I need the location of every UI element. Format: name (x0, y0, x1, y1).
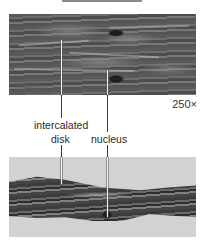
intercalated-disk-pointer-bottom (61, 157, 62, 184)
nucleus-pointer-bottom (107, 157, 108, 217)
fiber-streak (69, 52, 159, 59)
bottom-micrograph (9, 157, 196, 237)
nucleus-pointer-top (107, 70, 108, 95)
fiber-streak (19, 40, 89, 47)
intercalated-disk-pointer-lower (61, 145, 62, 157)
nucleus-pointer-lower (107, 145, 108, 157)
muscle-fiber (9, 173, 196, 221)
top-micrograph (9, 14, 196, 95)
nucleus-pointer-upper (107, 95, 108, 132)
fiber-streak (109, 25, 189, 30)
intercalated-disk-label-line2: disk (51, 133, 70, 145)
intercalated-disk-pointer-top (61, 40, 62, 95)
nucleus-label: nucleus (91, 133, 127, 145)
magnification-label: 250× (172, 98, 197, 111)
intercalated-disk-pointer-upper (61, 95, 62, 118)
fiber-streak (14, 68, 134, 72)
top-decorative-bar (62, 0, 142, 2)
intercalated-disk-label-line1: intercalated (34, 119, 88, 131)
